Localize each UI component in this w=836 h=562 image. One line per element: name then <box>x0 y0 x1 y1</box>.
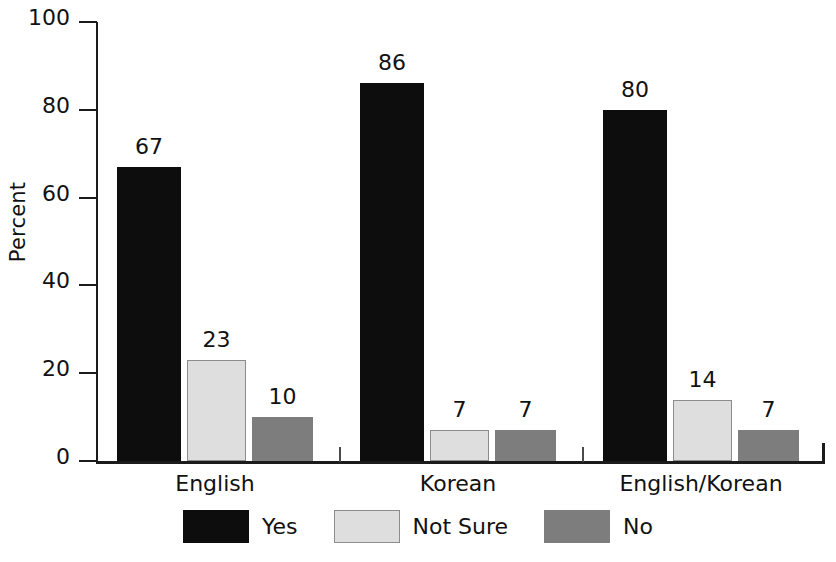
bar-chart-figure: Percent 020406080100 672310867780147 Eng… <box>0 0 836 562</box>
bar-english-not-sure[interactable] <box>187 360 246 461</box>
chart-legend: Yes Not Sure No <box>0 510 836 543</box>
bar-english-korean-not-sure[interactable] <box>673 400 732 461</box>
x-axis-category-label: English <box>105 471 325 496</box>
legend-label-yes: Yes <box>262 514 298 539</box>
bar-english-korean-no[interactable] <box>738 430 799 461</box>
bar-korean-no[interactable] <box>495 430 556 461</box>
legend-label-not-sure: Not Sure <box>413 514 509 539</box>
bar-value-label: 23 <box>177 329 257 351</box>
legend-item-yes[interactable]: Yes <box>183 510 298 543</box>
legend-item-not-sure[interactable]: Not Sure <box>334 510 509 543</box>
bar-english-korean-yes[interactable] <box>603 110 667 461</box>
bar-english-no[interactable] <box>252 417 313 461</box>
legend-label-no: No <box>623 514 653 539</box>
legend-item-no[interactable]: No <box>544 510 653 543</box>
bar-english-yes[interactable] <box>117 167 181 461</box>
legend-swatch-not-sure-icon <box>334 510 400 543</box>
bar-value-label: 7 <box>729 399 809 421</box>
legend-swatch-yes-icon <box>183 510 249 543</box>
x-axis-category-label: English/Korean <box>591 471 811 496</box>
x-axis-line <box>96 461 825 464</box>
bar-value-label: 86 <box>352 52 432 74</box>
bar-value-label: 67 <box>109 136 189 158</box>
x-axis-category-label: Korean <box>348 471 568 496</box>
bar-value-label: 10 <box>243 386 323 408</box>
bar-korean-yes[interactable] <box>360 83 424 461</box>
bars-layer: 672310867780147 <box>0 0 836 461</box>
bar-value-label: 80 <box>595 79 675 101</box>
bar-value-label: 7 <box>486 399 566 421</box>
bar-korean-not-sure[interactable] <box>430 430 489 461</box>
bar-value-label: 14 <box>663 369 743 391</box>
legend-swatch-no-icon <box>544 510 610 543</box>
